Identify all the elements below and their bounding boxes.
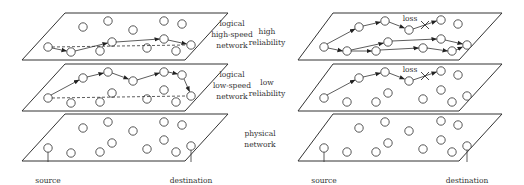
- node: [372, 148, 380, 156]
- node: [381, 17, 389, 25]
- node: [79, 23, 87, 31]
- node: [355, 23, 363, 31]
- node: [384, 38, 392, 46]
- left-layer-low-speed: [22, 64, 228, 111]
- right-layer-low-reliability: loss: [298, 64, 502, 111]
- node: [108, 139, 116, 147]
- node-destination: [463, 142, 471, 150]
- node: [437, 117, 445, 125]
- node: [129, 77, 137, 85]
- node: [104, 68, 112, 76]
- node: [384, 139, 392, 147]
- node: [160, 35, 168, 43]
- layer-label-line: physical: [244, 129, 276, 138]
- node: [343, 148, 351, 156]
- node: [108, 89, 116, 97]
- node: [405, 26, 413, 34]
- node: [437, 67, 445, 75]
- right-diagram: high reliability low reliability: [249, 13, 502, 185]
- node: [448, 148, 456, 156]
- node: [160, 86, 168, 94]
- node: [419, 95, 427, 103]
- plane: [298, 114, 502, 161]
- node: [67, 48, 75, 56]
- source-label: source: [311, 176, 337, 185]
- layer-label-line: low-speed: [213, 81, 251, 90]
- node: [454, 71, 462, 79]
- node: [104, 17, 112, 25]
- right-layer-physical: [298, 114, 502, 162]
- node: [104, 118, 112, 126]
- node: [178, 20, 186, 28]
- node: [372, 47, 380, 55]
- node-destination: [187, 41, 195, 49]
- node-source: [44, 94, 52, 102]
- layer-label-line: logical: [219, 19, 245, 28]
- node: [96, 148, 104, 156]
- destination-label: destination: [170, 176, 213, 185]
- left-layer-high-speed: [22, 13, 228, 60]
- node: [381, 118, 389, 126]
- node: [381, 68, 389, 76]
- plane: [298, 13, 502, 60]
- node-destination: [463, 92, 471, 100]
- left-layer-physical: [22, 114, 228, 162]
- node: [160, 118, 168, 126]
- node: [67, 149, 75, 157]
- node-destination: [187, 142, 195, 150]
- node: [437, 35, 445, 43]
- right-layer-high-reliability: loss: [298, 13, 502, 60]
- node: [143, 145, 151, 153]
- node: [437, 16, 445, 24]
- node: [172, 148, 180, 156]
- node: [343, 47, 351, 55]
- node: [160, 17, 168, 25]
- node-source: [44, 144, 52, 152]
- node: [67, 99, 75, 107]
- source-label: source: [35, 176, 61, 185]
- node: [143, 95, 151, 103]
- layer-label-line: reliability: [249, 38, 286, 47]
- node-destination: [187, 92, 195, 100]
- node: [79, 74, 87, 82]
- node: [178, 71, 186, 79]
- plane: [22, 114, 228, 161]
- node: [355, 74, 363, 82]
- layer-label-line: logical: [219, 70, 245, 79]
- node: [172, 98, 180, 106]
- node: [454, 20, 462, 28]
- node: [448, 98, 456, 106]
- node: [129, 26, 137, 34]
- layer-label-line: network: [216, 92, 248, 101]
- node: [178, 121, 186, 129]
- node: [160, 68, 168, 76]
- node: [343, 98, 351, 106]
- layer-label-line: low: [260, 78, 274, 87]
- node: [355, 124, 363, 132]
- node-source: [320, 144, 328, 152]
- node: [454, 121, 462, 129]
- node: [419, 145, 427, 153]
- node: [96, 47, 104, 55]
- plane: [22, 13, 228, 60]
- node: [405, 77, 413, 85]
- node: [419, 44, 427, 52]
- layer-label-line: reliability: [249, 89, 286, 98]
- node: [96, 98, 104, 106]
- network-diagram: source destination logical high-speed ne…: [0, 0, 524, 185]
- node: [437, 136, 445, 144]
- node-source: [320, 43, 328, 51]
- plane: [298, 64, 502, 111]
- node-source: [320, 94, 328, 102]
- node: [448, 47, 456, 55]
- loss-label: loss: [403, 14, 418, 23]
- loss-label: loss: [403, 65, 418, 74]
- node: [129, 127, 137, 135]
- node: [384, 89, 392, 97]
- node: [172, 47, 180, 55]
- layer-label-line: network: [216, 41, 248, 50]
- destination-label: destination: [446, 176, 489, 185]
- node: [372, 98, 380, 106]
- left-diagram: source destination logical high-speed ne…: [22, 13, 276, 185]
- plane: [22, 64, 228, 111]
